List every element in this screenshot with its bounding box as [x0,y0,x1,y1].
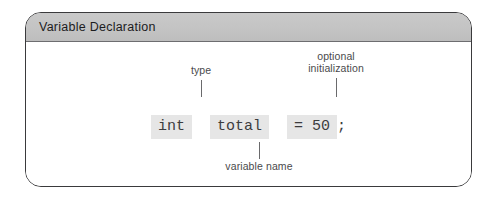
variable-declaration-figure: Variable Declaration type optional initi… [25,12,472,187]
code-token-type: int [151,115,192,139]
code-token-terminator: ; [337,118,346,135]
diagram-canvas: type optional initialization int total =… [26,42,471,186]
annotation-label-optional-initialization: optional initialization [288,50,384,74]
code-token-variable-name: total [210,115,269,139]
leader-line-variable-name [259,142,260,159]
annotation-label-type: type [166,64,236,76]
annotation-label-variable-name: variable name [199,160,319,172]
figure-title: Variable Declaration [39,20,156,34]
leader-line-type [201,80,202,97]
leader-line-optional-initialization [336,78,337,97]
code-token-initializer: = 50 [287,115,337,139]
code-statement: int total = 50 ; [26,115,471,139]
figure-title-bar: Variable Declaration [26,13,471,42]
